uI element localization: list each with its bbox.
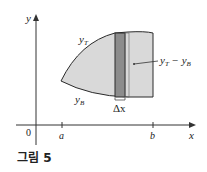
height-leader-dot [133, 63, 135, 65]
tick-b-label: b [150, 130, 155, 141]
region-between-curves [61, 32, 153, 97]
strip-height-label: yT − yB [159, 54, 192, 68]
y-axis-arrow-icon [33, 14, 39, 21]
delta-x-label: Δx [113, 102, 126, 114]
x-axis-arrow-icon [189, 122, 196, 128]
tick-a-label: a [59, 130, 64, 141]
origin-label: 0 [26, 127, 31, 138]
figure-caption: 그림 5 [17, 148, 52, 165]
area-between-curves-diagram: y x 0 a b yT yB Δx yT − yB [0, 0, 207, 172]
y-axis-label: y [25, 12, 31, 24]
delta-x-bracket [115, 98, 125, 100]
bottom-curve-label: yB [74, 93, 85, 107]
top-curve-label: yT [78, 33, 89, 47]
x-axis-label: x [188, 129, 194, 141]
approximating-rectangle [115, 33, 125, 97]
